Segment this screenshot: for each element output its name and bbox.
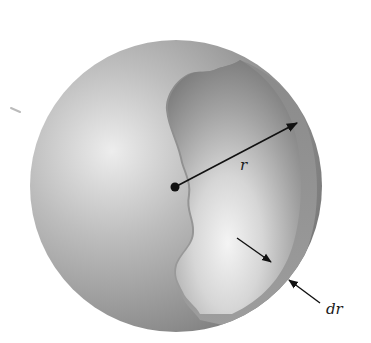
thickness-label: dr (326, 300, 344, 318)
outer-thickness-arrow (289, 280, 320, 303)
stray-mark (11, 108, 20, 112)
spherical-shell-diagram: r dr (0, 0, 371, 343)
radius-label: r (240, 156, 248, 174)
